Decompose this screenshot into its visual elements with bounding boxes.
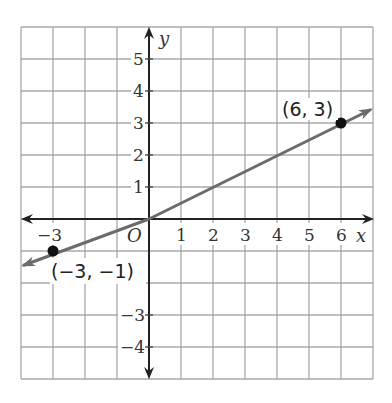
coordinate-plane: 5 4 3 2 1 −3 −4 −3 O 1 2 3 4 5 6 x y (6,… <box>0 0 392 403</box>
y-tick-3: 3 <box>133 113 144 133</box>
grid <box>21 27 373 379</box>
x-tick-neg3: −3 <box>37 225 62 245</box>
x-tick-5: 5 <box>304 225 315 245</box>
y-axis-label: y <box>158 28 170 49</box>
y-tick-5: 5 <box>133 49 144 69</box>
x-tick-3: 3 <box>240 225 251 245</box>
x-axis-label: x <box>356 225 366 246</box>
y-tick-4: 4 <box>133 81 144 101</box>
point-neg3-neg1 <box>48 246 59 257</box>
origin-label: O <box>127 225 142 246</box>
x-tick-1: 1 <box>176 225 187 245</box>
y-tick-1: 1 <box>133 177 144 197</box>
y-tick-neg3: −3 <box>120 305 145 325</box>
y-tick-2: 2 <box>133 145 144 165</box>
point-label-neg3-neg1: (−3, −1) <box>51 260 134 282</box>
x-tick-2: 2 <box>208 225 219 245</box>
y-tick-neg4: −4 <box>120 337 145 357</box>
point-label-6-3: (6, 3) <box>282 98 333 120</box>
x-tick-6: 6 <box>336 225 347 245</box>
x-tick-4: 4 <box>272 225 283 245</box>
